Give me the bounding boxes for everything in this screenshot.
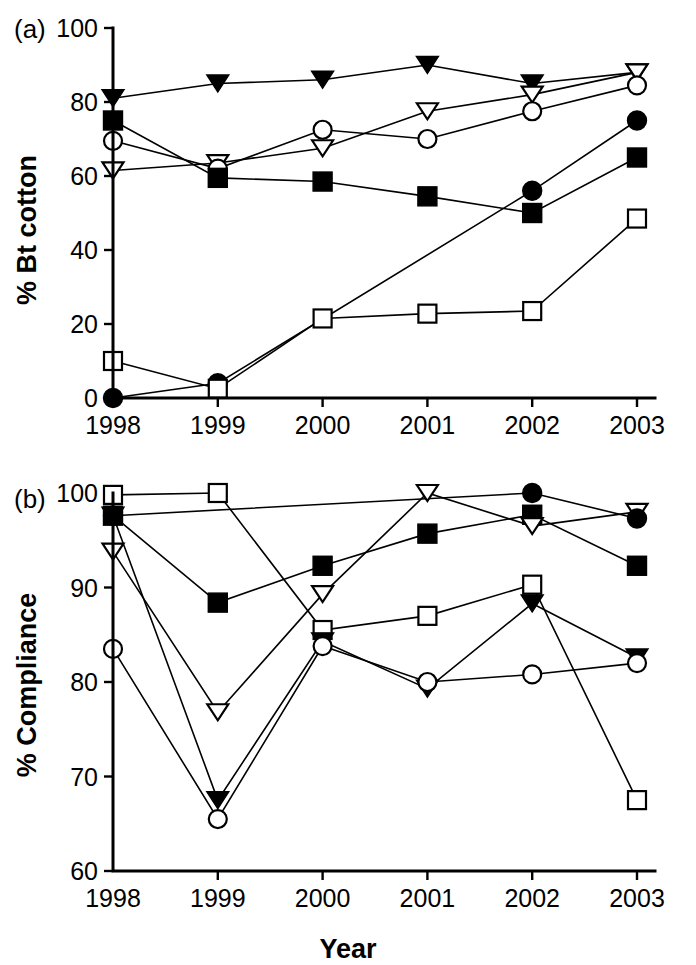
open-square-marker [628,210,646,228]
y-tick-labels-b: 60708090100 [56,479,98,885]
x-tick-label: 2001 [400,884,456,912]
series-line-open-circle [113,85,637,168]
open-circle-marker [628,76,646,94]
open-circle-marker [209,810,227,828]
open-circle-marker [628,654,646,672]
open-triangle-down-marker [417,103,438,119]
filled-square-marker [628,148,647,167]
x-tick-label: 1998 [85,411,141,439]
chart-panel-b: (b) % Compliance 60708090100 19981999200… [0,460,696,965]
open-circle-marker [314,637,332,655]
series-line-open-triangle-down [113,493,637,712]
open-square-marker [209,380,227,398]
x-tick-labels-b: 199819992000200120022003 [85,884,665,912]
x-tick-label: 2001 [400,411,456,439]
open-circle-marker [523,102,541,120]
y-tick-label: 80 [70,668,98,696]
filled-circle-marker [523,484,542,503]
axis-lines-a [113,28,655,398]
chart-panel-a: (a) % Bt cotton 020406080100 19981999200… [0,0,696,460]
open-triangle-down-marker [312,140,333,156]
filled-square-marker [418,187,437,206]
filled-triangle-down-marker [416,57,438,74]
axis-lines-b [113,493,655,871]
filled-square-marker [628,556,647,575]
series-line-open-square [113,493,637,800]
filled-circle-marker [628,509,647,528]
x-tick-label: 2003 [609,411,665,439]
y-axis-title-b: % Compliance [12,593,42,778]
filled-circle-marker [628,111,647,130]
open-circle-marker [418,130,436,148]
open-triangle-down-marker [207,704,228,720]
filled-square-marker [523,204,542,223]
open-square-marker [314,309,332,327]
y-tick-label: 80 [70,88,98,116]
filled-square-marker [313,556,332,575]
filled-square-marker [418,524,437,543]
x-tick-label: 2002 [504,884,560,912]
data-series-group-a [102,57,648,408]
open-triangle-down-marker [522,87,543,103]
x-tick-label: 2000 [295,884,351,912]
y-tick-labels-a: 020406080100 [56,14,98,412]
open-square-marker [418,607,436,625]
open-square-marker [523,576,541,594]
x-tick-label: 2002 [504,411,560,439]
open-triangle-down-marker [522,518,543,534]
series-line-filled-circle [113,493,637,519]
filled-square-marker [208,593,227,612]
filled-circle-marker [523,181,542,200]
y-tick-label: 100 [56,14,98,42]
y-tick-label: 60 [70,162,98,190]
data-series-group-b [102,484,648,829]
open-circle-marker [523,665,541,683]
open-circle-marker [314,121,332,139]
x-tick-label: 1998 [85,884,141,912]
open-square-marker [209,484,227,502]
y-tick-label: 60 [70,857,98,885]
y-tick-label: 0 [84,384,98,412]
chart-svg-a: (a) % Bt cotton 020406080100 19981999200… [0,0,696,460]
panel-label-a: (a) [14,14,46,44]
y-tick-label: 40 [70,236,98,264]
y-tick-label: 90 [70,574,98,602]
panel-label-b: (b) [14,484,46,514]
chart-svg-b: (b) % Compliance 60708090100 19981999200… [0,460,696,965]
y-axis-title-a: % Bt cotton [12,155,42,305]
filled-square-marker [313,172,332,191]
series-line-filled-triangle-down [113,65,637,98]
y-tick-label: 100 [56,479,98,507]
series-line-filled-triangle-down [113,516,637,800]
x-tick-label: 2000 [295,411,351,439]
open-square-marker [628,791,646,809]
series-line-filled-square [113,515,637,603]
x-tick-label: 1999 [190,884,246,912]
x-tick-label: 1999 [190,411,246,439]
y-tick-label: 20 [70,310,98,338]
x-tick-labels-a: 199819992000200120022003 [85,411,665,439]
filled-square-marker [208,168,227,187]
y-tick-label: 70 [70,763,98,791]
figure-container: (a) % Bt cotton 020406080100 19981999200… [0,0,696,965]
open-triangle-down-marker [312,586,333,602]
open-circle-marker [418,673,436,691]
axis-ticks-a [104,28,637,407]
open-square-marker [523,302,541,320]
x-axis-title: Year [319,934,377,964]
open-square-marker [418,305,436,323]
x-tick-label: 2003 [609,884,665,912]
series-line-open-square [113,219,637,389]
